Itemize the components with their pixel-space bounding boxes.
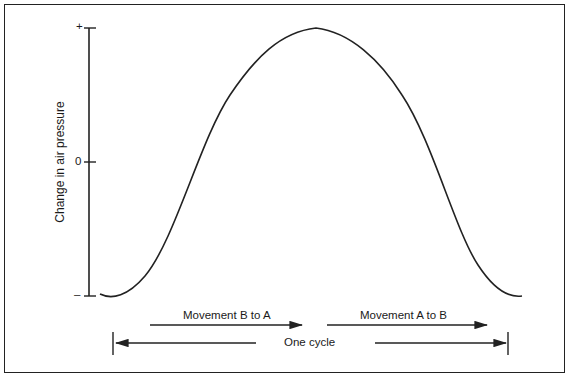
tick-plus: +	[76, 20, 83, 32]
y-axis-label: Change in air pressure	[53, 101, 67, 222]
label-one-cycle: One cycle	[284, 336, 335, 348]
y-axis	[84, 28, 96, 296]
tick-minus: –	[74, 288, 80, 300]
tick-zero: 0	[75, 155, 81, 167]
pressure-waveform	[100, 28, 522, 297]
label-movement-b-to-a: Movement B to A	[183, 309, 271, 321]
diagram-canvas	[0, 0, 570, 380]
label-movement-a-to-b: Movement A to B	[360, 309, 447, 321]
